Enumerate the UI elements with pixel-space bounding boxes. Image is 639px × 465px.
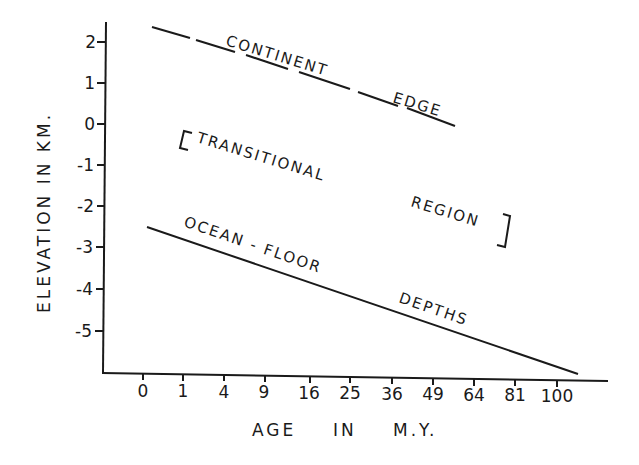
x-tick-labels: 0 1 4 9 16 25 36 49 64 81 100 [138, 381, 574, 406]
x-tick-1: 1 [178, 381, 189, 401]
continent-label: CONTINENT [224, 32, 331, 80]
x-axis-title-my: M.Y. [393, 420, 437, 440]
right-bracket [497, 214, 510, 247]
x-tick-36: 36 [381, 384, 403, 404]
region-label: REGION [409, 193, 482, 231]
y-axis-title: ELEVATION IN KM. [34, 112, 54, 313]
ocean-floor-label: OCEAN - FLOOR [182, 213, 325, 277]
y-axis [103, 22, 106, 373]
x-tick-25: 25 [339, 383, 361, 403]
x-tick-64: 64 [463, 385, 485, 405]
x-tick-49: 49 [422, 384, 444, 404]
edge-label: EDGE [391, 89, 444, 121]
x-axis [102, 373, 608, 381]
x-axis-title: AGE IN M.Y. [252, 420, 437, 440]
x-tick-9: 9 [259, 382, 270, 402]
x-axis-title-age: AGE [252, 420, 296, 440]
ocean-floor-line [147, 227, 578, 374]
left-bracket [180, 131, 192, 150]
y-tick-neg5: -5 [75, 321, 92, 341]
x-tick-4: 4 [219, 382, 230, 402]
y-tick-1: 1 [84, 73, 95, 93]
y-tick-0: 0 [84, 114, 95, 134]
x-tick-81: 81 [504, 385, 526, 405]
x-tick-16: 16 [298, 383, 320, 403]
transitional-label: TRANSITIONAL [194, 128, 328, 185]
y-tick-labels: 2 1 0 -1 -2 -3 -4 -5 [75, 32, 96, 341]
y-tick-neg2: -2 [77, 196, 94, 216]
x-axis-title-in: IN [333, 420, 357, 440]
x-tick-100: 100 [541, 386, 573, 406]
y-tick-neg3: -3 [76, 237, 93, 257]
y-tick-2: 2 [85, 32, 96, 52]
depths-label: DEPTHS [397, 289, 471, 329]
x-tick-0: 0 [138, 381, 149, 401]
y-tick-neg1: -1 [77, 155, 94, 175]
y-tick-neg4: -4 [76, 279, 93, 299]
chart: 2 1 0 -1 -2 -3 -4 -5 0 1 4 9 16 25 36 49… [0, 0, 639, 465]
